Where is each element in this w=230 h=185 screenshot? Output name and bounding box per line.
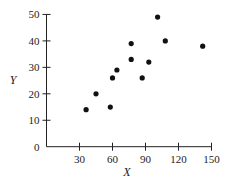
x-tick-label: 30 (74, 153, 86, 165)
x-axis-label: X (122, 165, 131, 179)
data-point (146, 59, 151, 64)
y-tick-label: 50 (29, 8, 41, 20)
y-tick-label: 30 (29, 61, 41, 73)
y-tick-label: 20 (29, 88, 41, 100)
x-tick-label: 60 (107, 153, 119, 165)
data-point (110, 75, 115, 80)
y-tick-label: 0 (34, 141, 40, 153)
data-point (114, 67, 119, 72)
data-point (163, 38, 168, 43)
data-point (108, 104, 113, 109)
y-tick-label: 40 (29, 35, 41, 47)
data-point (129, 57, 134, 62)
x-tick-label: 90 (140, 153, 152, 165)
scatter-chart: 01020304050306090120150 X Y (0, 0, 230, 185)
data-point (129, 41, 134, 46)
data-point (155, 14, 160, 19)
x-tick-label: 150 (203, 153, 220, 165)
data-point (140, 75, 145, 80)
data-point (84, 107, 89, 112)
x-tick-label: 120 (170, 153, 187, 165)
axes: 01020304050306090120150 (29, 8, 221, 164)
data-points (84, 14, 206, 112)
data-point (93, 91, 98, 96)
y-axis-label: Y (10, 73, 18, 87)
y-tick-label: 10 (29, 114, 41, 126)
data-point (200, 44, 205, 49)
